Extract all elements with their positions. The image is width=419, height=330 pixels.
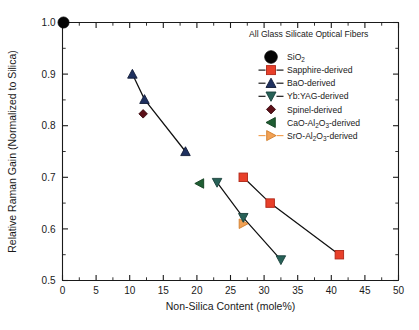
x-tick-label: 10 [124, 285, 136, 296]
series-BaO-derived [128, 69, 191, 155]
legend-label: CaO-Al2O3-derived [287, 118, 360, 129]
legend-item-SrO-Al2O3-derived[interactable]: SrO-Al2O3-derived [259, 131, 358, 142]
data-point-marker [139, 110, 148, 119]
data-point-marker [195, 179, 204, 189]
legend-label: Sapphire-derived [287, 65, 353, 75]
chart-canvas: 051015202530354045500.50.60.70.80.91.0No… [0, 0, 419, 330]
series-connector-line [217, 182, 281, 259]
series-CaO-Al2O3-derived [195, 179, 204, 189]
y-axis: 0.50.60.70.80.91.0 [42, 17, 399, 286]
legend-marker-square [267, 66, 276, 75]
legend-item-SiO2[interactable]: SiO2 [265, 51, 306, 64]
series-Spinel-derived [139, 110, 148, 119]
data-point-marker [276, 256, 286, 265]
x-tick-label: 25 [225, 285, 237, 296]
x-tick-label: 45 [359, 285, 371, 296]
raman-gain-chart-figure: 051015202530354045500.50.60.70.80.91.0No… [0, 0, 419, 330]
data-point-marker [335, 250, 344, 259]
legend-label: Yb:YAG-derived [287, 91, 349, 101]
data-point-marker [266, 199, 275, 208]
legend-label: SiO2 [287, 52, 305, 63]
y-tick-label: 0.6 [42, 224, 56, 235]
x-tick-label: 20 [191, 285, 203, 296]
legend-title: All Glass Silicate Optical Fibers [249, 29, 368, 39]
x-axis-title: Non-Silica Content (mole%) [166, 300, 296, 312]
x-axis: 05101520253035404550 [60, 23, 405, 296]
legend-marker-triangle-left [266, 118, 275, 128]
y-tick-label: 0.9 [42, 69, 56, 80]
legend-marker-diamond [267, 105, 276, 114]
y-tick-label: 0.7 [42, 172, 56, 183]
x-tick-label: 50 [393, 285, 405, 296]
y-axis-title: Relative Raman Gain (Normalized to Silic… [6, 50, 18, 253]
legend-item-CaO-Al2O3-derived[interactable]: CaO-Al2O3-derived [266, 118, 360, 129]
legend-item-Sapphire-derived[interactable]: Sapphire-derived [259, 65, 353, 75]
x-tick-label: 40 [326, 285, 338, 296]
legend-item-Yb:YAG-derived[interactable]: Yb:YAG-derived [259, 91, 349, 101]
legend-marker-triangle-right [267, 131, 276, 141]
legend-item-Spinel-derived[interactable]: Spinel-derived [267, 105, 343, 115]
legend-marker-triangle-down [266, 92, 276, 101]
x-tick-label: 0 [60, 285, 66, 296]
data-point-marker [239, 173, 248, 182]
x-tick-label: 35 [292, 285, 304, 296]
legend-item-BaO-derived[interactable]: BaO-derived [259, 78, 336, 88]
y-tick-label: 0.5 [42, 275, 56, 286]
series-SiO2 [58, 17, 69, 28]
legend-marker-circle [265, 51, 278, 64]
legend-label: SrO-Al2O3-derived [287, 131, 358, 142]
data-point-marker [128, 69, 138, 78]
y-tick-label: 1.0 [42, 17, 56, 28]
series-connector-line [243, 177, 339, 254]
y-tick-label: 0.8 [42, 120, 56, 131]
legend-label: BaO-derived [287, 78, 335, 88]
x-tick-label: 15 [158, 285, 170, 296]
legend-marker-triangle-up [266, 78, 276, 87]
x-tick-label: 30 [259, 285, 271, 296]
chart-legend: All Glass Silicate Optical FibersSiO2Sap… [249, 29, 368, 142]
data-point-marker [58, 17, 69, 28]
axis-frame [63, 23, 399, 281]
legend-label: Spinel-derived [287, 105, 342, 115]
data-point-marker [140, 95, 150, 104]
x-tick-label: 5 [93, 285, 99, 296]
